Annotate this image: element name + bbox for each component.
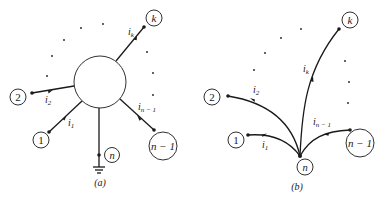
current-in-1-label: in − 1: [138, 101, 156, 114]
terminal-dot: [152, 128, 156, 132]
terminal-dot: [97, 153, 101, 157]
branch-n-1-wire: [120, 99, 154, 130]
terminal-dot: [142, 25, 146, 29]
current-i1-label: i1: [68, 117, 74, 130]
current-ik-label: ik: [303, 63, 310, 76]
node-n-1-label: n − 1: [151, 140, 175, 152]
node-2-label: 2: [209, 91, 215, 103]
ground-icon: [93, 167, 105, 173]
branch-n-1-wire: [300, 130, 350, 156]
panel-a: k ik 2 i2 1 i1 n − 1 in − 1 n (a): [10, 10, 177, 189]
network-figure: k ik 2 i2 1 i1 n − 1 in − 1 n (a): [0, 0, 390, 204]
node-n-1-label: n − 1: [348, 137, 372, 149]
node-2-label: 2: [15, 91, 21, 103]
node-n-label: n: [302, 162, 307, 173]
current-ik-label: ik: [128, 26, 135, 39]
current-in-1-label: in − 1: [313, 116, 331, 129]
terminal-dot: [226, 94, 230, 98]
terminal-dot: [337, 27, 341, 31]
terminal-dot: [47, 130, 51, 134]
node-1-label: 1: [233, 134, 239, 146]
panel-b: k ik 2 i2 1 i1 n − 1 in − 1 n (b): [204, 12, 374, 193]
terminal-dot: [30, 91, 34, 95]
current-i2-label: i2: [253, 84, 260, 97]
branch-2-wire: [32, 86, 74, 93]
ellipsis-dots-right: [146, 51, 154, 96]
current-i1-label: i1: [262, 139, 268, 152]
arrow-icon: [134, 36, 138, 41]
caption-b: (b): [291, 181, 303, 193]
current-i2-label: i2: [45, 94, 52, 107]
caption-a: (a): [94, 177, 106, 189]
node-1-label: 1: [38, 134, 44, 146]
terminal-dot: [246, 133, 250, 137]
branch-1-wire: [248, 135, 300, 156]
ellipsis-dots-right: [344, 60, 350, 104]
terminal-dot: [348, 128, 352, 132]
ellipsis-dots-left: [253, 28, 302, 71]
network-circle: [74, 56, 126, 108]
node-n-label: n: [109, 150, 114, 161]
